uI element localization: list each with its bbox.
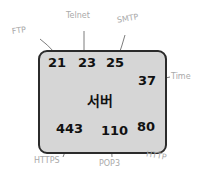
port-time: 37 xyxy=(138,74,156,87)
port-pop3: 110 xyxy=(101,124,128,137)
server-label: 서버 xyxy=(87,94,113,108)
label-pop3: POP3 xyxy=(99,160,120,168)
label-https: HTTPS xyxy=(34,157,60,165)
port-telnet: 23 xyxy=(78,56,96,69)
port-ftp: 21 xyxy=(48,56,66,69)
label-telnet: Telnet xyxy=(66,12,90,20)
label-time: Time xyxy=(171,73,191,81)
port-smtp: 25 xyxy=(106,56,124,69)
port-http: 80 xyxy=(137,120,155,133)
port-https: 443 xyxy=(56,122,83,135)
